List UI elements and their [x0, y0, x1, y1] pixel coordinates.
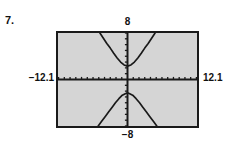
window-ymin-label: −8	[56, 129, 199, 140]
problem-number: 7.	[5, 14, 14, 26]
calculator-screen	[56, 31, 199, 128]
window-xmin-label: −12.1	[18, 72, 54, 83]
plot-area	[58, 33, 197, 126]
axes-group	[58, 33, 197, 126]
graph-figure: 7. 8 −12.1 12.1 −8	[0, 0, 236, 146]
window-ymax-label: 8	[56, 16, 199, 27]
window-xmax-label: 12.1	[203, 72, 235, 83]
